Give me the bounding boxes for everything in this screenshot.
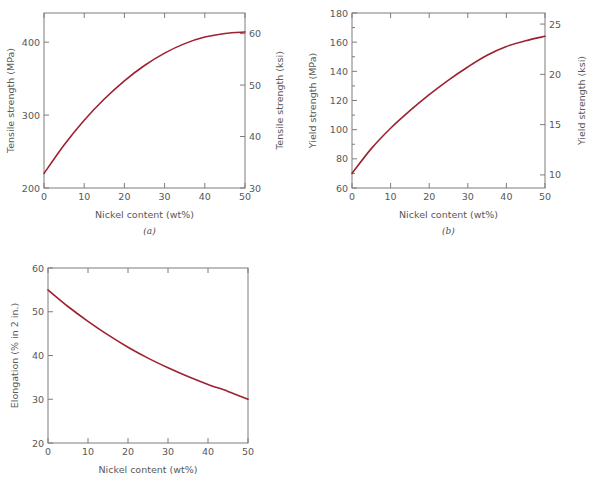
x-tick-label: 50 — [539, 191, 551, 202]
data-curve — [352, 36, 545, 173]
x-tick-label: 20 — [122, 446, 134, 457]
y-tick-label-left: 40 — [32, 350, 44, 361]
y-axis-title-right: Yield strength (ksi) — [576, 56, 587, 146]
y-tick-label-left: 80 — [336, 153, 348, 164]
x-tick-label: 0 — [45, 446, 51, 457]
plot-frame — [44, 13, 245, 188]
x-tick-label: 50 — [242, 446, 254, 457]
y-tick-label-left: 100 — [330, 124, 348, 135]
x-axis-title: Nickel content (wt%) — [99, 464, 198, 474]
x-tick-label: 10 — [385, 191, 397, 202]
x-tick-label: 40 — [202, 446, 214, 457]
y-tick-label-left: 50 — [32, 306, 44, 317]
x-tick-label: 0 — [349, 191, 355, 202]
x-tick-label: 10 — [78, 191, 90, 202]
y-axis-title-right: Tensile strength (ksi) — [274, 51, 285, 151]
y-tick-label-right: 40 — [249, 131, 261, 142]
y-tick-label-left: 180 — [330, 8, 348, 19]
x-tick-label: 10 — [82, 446, 94, 457]
data-curve — [44, 32, 245, 173]
x-tick-label: 40 — [500, 191, 512, 202]
y-tick-label-right: 30 — [249, 183, 261, 194]
y-tick-label-left: 160 — [330, 37, 348, 48]
y-tick-label-left: 60 — [32, 263, 44, 274]
chart-panel-b: 01020304050608010012014016018010152025Yi… — [299, 0, 598, 244]
plot-frame — [48, 268, 248, 443]
chart-panel-a: 0102030405020030040030405060Tensile stre… — [0, 0, 299, 244]
x-axis-title: Nickel content (wt%) — [399, 209, 498, 220]
y-tick-label-left: 300 — [22, 110, 40, 121]
y-tick-label-left: 140 — [330, 66, 348, 77]
y-tick-label-left: 20 — [32, 438, 44, 449]
x-tick-label: 30 — [162, 446, 174, 457]
plot-frame — [352, 13, 545, 188]
y-tick-label-right: 50 — [249, 80, 261, 91]
y-axis-title-left: Yield strength (MPa) — [307, 53, 318, 149]
panel-a-caption: (a) — [0, 226, 299, 236]
y-tick-label-right: 15 — [549, 119, 561, 130]
y-tick-label-left: 120 — [330, 95, 348, 106]
x-tick-label: 0 — [41, 191, 47, 202]
y-tick-label-right: 10 — [549, 169, 561, 180]
y-tick-label-left: 30 — [32, 394, 44, 405]
x-tick-label: 30 — [462, 191, 474, 202]
elongation-chart: 010203040502030405060Elongation (% in 2 … — [0, 244, 299, 474]
x-tick-label: 20 — [118, 191, 130, 202]
x-axis-title: Nickel content (wt%) — [95, 209, 194, 220]
yield-strength-chart: 01020304050608010012014016018010152025Yi… — [299, 0, 598, 226]
y-tick-label-right: 20 — [549, 69, 561, 80]
y-tick-label-right: 25 — [549, 19, 561, 30]
y-tick-label-left: 200 — [22, 183, 40, 194]
panel-b-caption: (b) — [299, 226, 598, 236]
chart-panel-c: 010203040502030405060Elongation (% in 2 … — [0, 244, 299, 487]
y-axis-title-left: Tensile strength (MPa) — [5, 48, 16, 154]
x-tick-label: 40 — [199, 191, 211, 202]
x-tick-label: 20 — [423, 191, 435, 202]
y-tick-label-right: 60 — [249, 28, 261, 39]
tensile-strength-chart: 0102030405020030040030405060Tensile stre… — [0, 0, 299, 226]
data-curve — [48, 290, 248, 399]
x-tick-label: 30 — [159, 191, 171, 202]
y-tick-label-left: 400 — [22, 37, 40, 48]
y-axis-title-left: Elongation (% in 2 in.) — [9, 303, 20, 408]
y-tick-label-left: 60 — [336, 183, 348, 194]
